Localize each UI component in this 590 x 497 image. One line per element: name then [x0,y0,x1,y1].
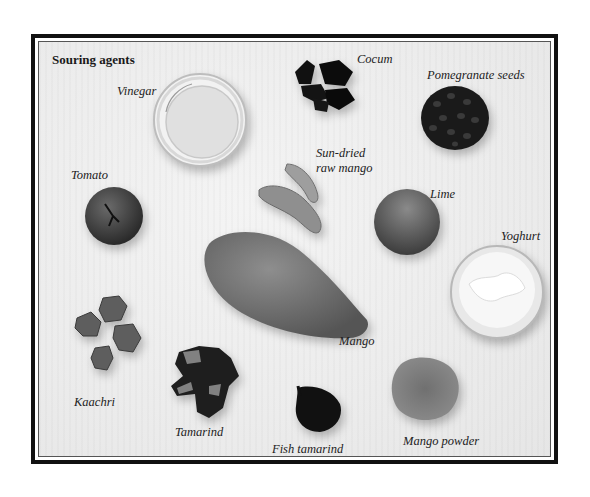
kaachri-label: Kaachri [74,395,115,410]
mango-powder-label: Mango powder [403,434,479,449]
cocum-label: Cocum [357,52,392,67]
sun-dried-label-line1: Sun-dried [316,146,365,161]
tamarind-label: Tamarind [175,425,223,440]
fish-tamarind-image [292,382,346,436]
illustration-plate: Souring agents Vinegar Cocum [38,41,551,457]
plate-title: Souring agents [52,52,135,68]
vinegar-bowl-image [152,72,252,172]
yoghurt-bowl-image [449,244,545,340]
mango-powder-image [387,354,467,426]
mango-label: Mango [339,334,374,349]
illustration-plate-frame: Souring agents Vinegar Cocum [31,34,558,464]
tamarind-image [169,342,245,422]
tomato-label: Tomato [71,168,108,183]
vinegar-label: Vinegar [117,84,156,99]
yoghurt-label: Yoghurt [501,229,540,244]
fish-tamarind-label: Fish tamarind [272,442,343,457]
tomato-image [83,186,145,246]
lime-label: Lime [430,187,455,202]
sun-dried-label-line2: raw mango [316,161,373,176]
pomegranate-seeds-label: Pomegranate seeds [427,68,525,83]
pomegranate-seeds-image [417,82,493,154]
mango-image [199,224,375,344]
kaachri-image [73,294,159,380]
